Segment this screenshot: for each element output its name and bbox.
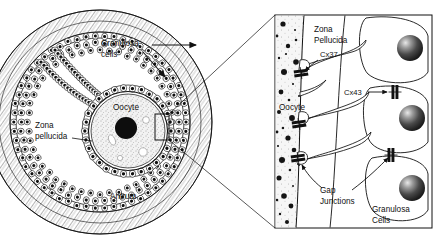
cortical-granule: [289, 115, 295, 121]
cortical-granule: [289, 169, 291, 171]
granulosa-cell: [92, 39, 98, 46]
zona-pellucida-label-line1: Zona: [35, 121, 54, 130]
cortical-granule: [277, 176, 282, 181]
cx43-label: Cx43: [344, 88, 362, 97]
cortical-granule: [278, 57, 280, 59]
cortical-granule: [276, 199, 279, 202]
follicle-cross-section: Granulosa cells Oocyte Zona pellucida An…: [0, 10, 275, 234]
cortical-granule: [286, 44, 290, 48]
cortical-granule: [279, 90, 284, 95]
figure-container: Granulosa cells Oocyte Zona pellucida An…: [0, 0, 436, 244]
gap-junctions-label-line2: Junctions: [320, 197, 355, 206]
granulosa-cell: [101, 197, 107, 204]
cortical-granule: [292, 83, 294, 85]
granulosa-cell: [176, 119, 183, 125]
granulosa-cell: [179, 137, 187, 144]
cortical-granule: [277, 145, 279, 147]
cortical-granule: [279, 213, 281, 215]
cortical-granule: [292, 148, 297, 153]
cortical-granule: [294, 29, 296, 31]
granulosa-cell: [13, 137, 21, 144]
granulosa-nucleus: [397, 35, 423, 61]
granulosa-cell: [10, 119, 17, 125]
cx37-label: Cx37: [320, 50, 338, 59]
cortical-granule: [282, 127, 284, 129]
cortical-granule: [279, 157, 285, 163]
oocyte-complex: [81, 84, 174, 178]
granulosa-cells-label-line1: Granulosa: [101, 39, 139, 48]
cortical-granule: [289, 204, 294, 209]
vacuole: [143, 117, 150, 124]
cortical-granule: [276, 131, 279, 134]
detail-oocyte-label: Oocyte: [279, 103, 305, 112]
cortical-granule: [276, 35, 279, 38]
oocyte-nucleus: [115, 117, 137, 139]
granulosa-cell: [24, 119, 30, 125]
granulosa-cells-label-line2: cells: [101, 50, 117, 59]
gap-junctions-label-line1: Gap: [320, 186, 336, 195]
cortical-granule: [292, 185, 294, 187]
cortical-granule: [285, 135, 290, 140]
antrum-label: Antrum: [110, 192, 137, 201]
detail-zona-label-line2: Pellucida: [314, 36, 348, 45]
cortical-granule: [281, 69, 287, 75]
granulosa-cell: [97, 192, 103, 198]
granulosa-cell: [167, 128, 174, 134]
oocyte-label: Oocyte: [113, 103, 139, 112]
cortical-granule: [288, 99, 291, 102]
cortical-granule: [293, 59, 299, 65]
detail-granulosa-label-line1: Granulosa: [372, 205, 410, 214]
diagram-svg: Granulosa cells Oocyte Zona pellucida An…: [0, 0, 436, 244]
granulosa-cell: [101, 204, 107, 211]
granulosa-cell: [92, 197, 98, 204]
granulosa-cell: [92, 33, 98, 40]
gap-junction-detail: Oocyte Zona Pellucida: [275, 15, 432, 228]
vacuole: [139, 148, 147, 156]
cortical-granule: [285, 220, 289, 224]
cortical-granule: [280, 21, 285, 26]
vacuole: [117, 155, 122, 160]
cortical-granule: [285, 53, 287, 55]
cortical-granule: [281, 193, 287, 199]
granulosa-cell: [81, 128, 88, 134]
granulosa-nucleus: [399, 105, 425, 131]
granulosa-nucleus: [399, 175, 425, 201]
detail-granulosa-label-line2: Cells: [372, 216, 390, 225]
zona-pellucida-label-line2: pellucida: [35, 132, 68, 141]
granulosa-cell: [11, 109, 18, 116]
granulosa-cell: [183, 119, 190, 125]
detail-zona-label-line1: Zona: [314, 25, 333, 34]
granulosa-cell: [92, 205, 98, 212]
cortical-granule: [295, 39, 298, 42]
